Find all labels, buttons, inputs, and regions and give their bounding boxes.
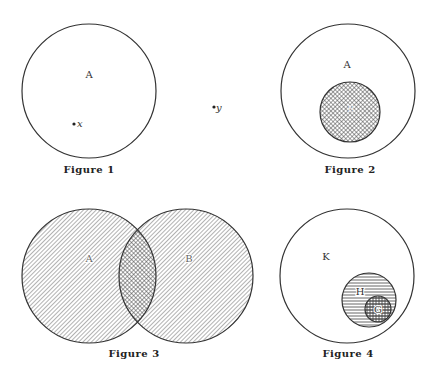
point-y-label: y (215, 102, 222, 113)
caption-figure-1: Figure 1 (63, 164, 114, 175)
set-h-label: H (356, 286, 365, 297)
figure-2: A B Figure 2 (281, 24, 415, 175)
caption-figure-2: Figure 2 (324, 164, 375, 175)
set-b-label: B (347, 103, 354, 114)
set-a-circle (22, 24, 156, 158)
point-x-dot (72, 122, 75, 125)
set-a-label: A (342, 59, 351, 70)
set-a-label: A (84, 253, 93, 264)
point-y: y (212, 102, 222, 113)
set-k-circle (280, 209, 414, 343)
set-a-label: A (84, 69, 93, 80)
set-k-label: K (322, 251, 330, 262)
figure-4: K H G Figure 4 (280, 209, 414, 359)
point-x-label: x (77, 118, 83, 129)
caption-figure-4: Figure 4 (322, 348, 373, 359)
set-g-label: G (374, 304, 382, 315)
set-b-label: B (185, 253, 192, 264)
figure-1: A x Figure 1 (22, 24, 156, 175)
caption-figure-3: Figure 3 (108, 348, 159, 359)
venn-diagrams: A x Figure 1 y A B Figure 2 A B Figure 3… (0, 0, 438, 378)
figure-3: A B Figure 3 (22, 209, 253, 359)
